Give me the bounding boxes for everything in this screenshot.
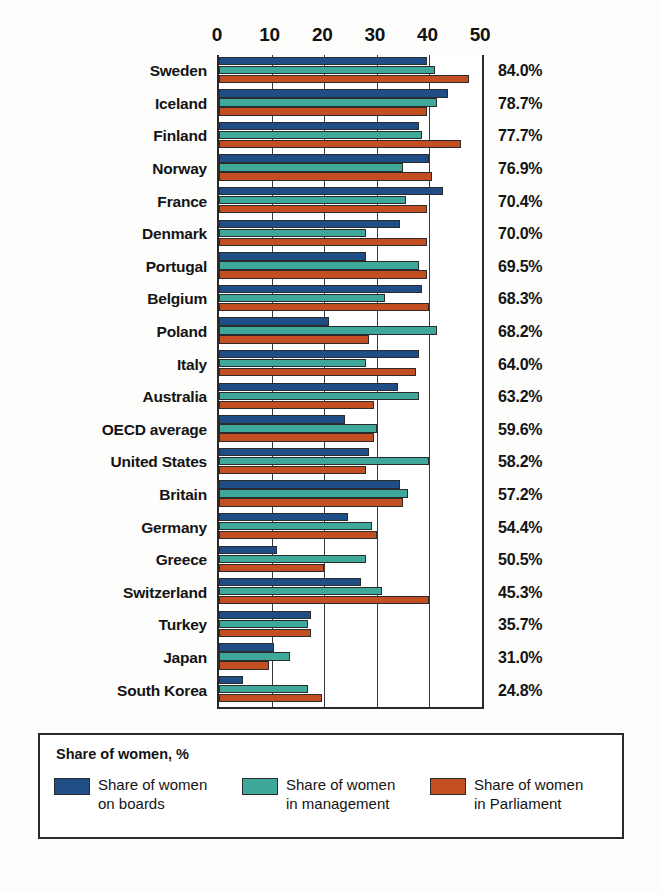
value-label: 50.5% bbox=[498, 544, 618, 577]
bar bbox=[219, 466, 366, 474]
bar bbox=[219, 98, 437, 106]
bar bbox=[219, 652, 290, 660]
value-label: 58.2% bbox=[498, 446, 618, 479]
chart-page: 01020304050 SwedenIcelandFinlandNorwayFr… bbox=[0, 0, 660, 893]
bar bbox=[219, 261, 419, 269]
value-label: 64.0% bbox=[498, 348, 618, 381]
legend-item[interactable]: Share of women on boards bbox=[54, 775, 236, 813]
bar bbox=[219, 555, 366, 563]
value-label: 77.7% bbox=[498, 120, 618, 153]
category-label: Belgium bbox=[0, 283, 207, 316]
bar bbox=[219, 611, 311, 619]
legend-item[interactable]: Share of women in management bbox=[242, 775, 424, 813]
bar bbox=[219, 154, 429, 162]
plot-area bbox=[217, 55, 484, 709]
value-label: 35.7% bbox=[498, 609, 618, 642]
legend-swatch-icon bbox=[430, 778, 466, 795]
bar bbox=[219, 326, 437, 334]
category-label: Norway bbox=[0, 153, 207, 186]
bar bbox=[219, 140, 461, 148]
legend-item[interactable]: Share of women in Parliament bbox=[430, 775, 612, 813]
bar bbox=[219, 229, 366, 237]
bar bbox=[219, 498, 403, 506]
x-tick-label-0: 0 bbox=[212, 24, 222, 46]
bar bbox=[219, 303, 429, 311]
bar-rows bbox=[219, 55, 482, 707]
bar bbox=[219, 220, 400, 228]
bar bbox=[219, 238, 427, 246]
legend-swatch-icon bbox=[242, 778, 278, 795]
bar bbox=[219, 424, 377, 432]
value-label: 31.0% bbox=[498, 642, 618, 675]
bar-group bbox=[219, 381, 482, 414]
bar bbox=[219, 187, 443, 195]
x-tick-label-10: 10 bbox=[259, 24, 280, 46]
bar-group bbox=[219, 185, 482, 218]
category-label: Turkey bbox=[0, 609, 207, 642]
bar bbox=[219, 480, 400, 488]
bar-group bbox=[219, 446, 482, 479]
value-label: 45.3% bbox=[498, 577, 618, 610]
category-label: OECD average bbox=[0, 414, 207, 447]
category-label: Italy bbox=[0, 348, 207, 381]
bar bbox=[219, 89, 448, 97]
category-label: France bbox=[0, 185, 207, 218]
bar bbox=[219, 433, 374, 441]
bar bbox=[219, 685, 308, 693]
category-label: Britain bbox=[0, 479, 207, 512]
value-label: 57.2% bbox=[498, 479, 618, 512]
value-label: 76.9% bbox=[498, 153, 618, 186]
bar bbox=[219, 285, 422, 293]
bar-group bbox=[219, 283, 482, 316]
bar bbox=[219, 596, 429, 604]
bar-group bbox=[219, 55, 482, 88]
x-tick-label-50: 50 bbox=[470, 24, 491, 46]
value-label: 68.3% bbox=[498, 283, 618, 316]
bar bbox=[219, 676, 243, 684]
bar bbox=[219, 564, 324, 572]
bar bbox=[219, 694, 322, 702]
bar-group bbox=[219, 674, 482, 707]
bar-group bbox=[219, 544, 482, 577]
bar-group bbox=[219, 153, 482, 186]
category-label: Greece bbox=[0, 544, 207, 577]
legend-label: Share of women in management bbox=[286, 775, 395, 813]
bar bbox=[219, 629, 311, 637]
legend: Share of women, % Share of women on boar… bbox=[38, 733, 624, 839]
bar-group bbox=[219, 642, 482, 675]
bar bbox=[219, 196, 406, 204]
bar bbox=[219, 531, 377, 539]
value-label: 24.8% bbox=[498, 674, 618, 707]
bar bbox=[219, 205, 427, 213]
value-label: 84.0% bbox=[498, 55, 618, 88]
bar bbox=[219, 57, 427, 65]
category-label: Finland bbox=[0, 120, 207, 153]
category-axis-labels: SwedenIcelandFinlandNorwayFranceDenmarkP… bbox=[0, 55, 207, 707]
value-label: 54.4% bbox=[498, 511, 618, 544]
value-label: 59.6% bbox=[498, 414, 618, 447]
bar bbox=[219, 620, 308, 628]
bar bbox=[219, 448, 369, 456]
category-label: Denmark bbox=[0, 218, 207, 251]
category-label: Switzerland bbox=[0, 577, 207, 610]
category-label: Japan bbox=[0, 642, 207, 675]
bar-group bbox=[219, 577, 482, 610]
value-label: 78.7% bbox=[498, 88, 618, 121]
bar bbox=[219, 122, 419, 130]
bar bbox=[219, 546, 277, 554]
bar bbox=[219, 578, 361, 586]
bar bbox=[219, 270, 427, 278]
bar-group bbox=[219, 88, 482, 121]
bar-group bbox=[219, 414, 482, 447]
bar-group bbox=[219, 218, 482, 251]
bar bbox=[219, 522, 372, 530]
legend-swatch-icon bbox=[54, 778, 90, 795]
bar bbox=[219, 401, 374, 409]
x-tick-label-30: 30 bbox=[365, 24, 386, 46]
bar bbox=[219, 75, 469, 83]
bar bbox=[219, 392, 419, 400]
bar bbox=[219, 513, 348, 521]
value-labels-column: 84.0%78.7%77.7%76.9%70.4%70.0%69.5%68.3%… bbox=[498, 55, 618, 707]
x-axis-tick-labels: 01020304050 bbox=[0, 24, 660, 50]
bar-group bbox=[219, 348, 482, 381]
